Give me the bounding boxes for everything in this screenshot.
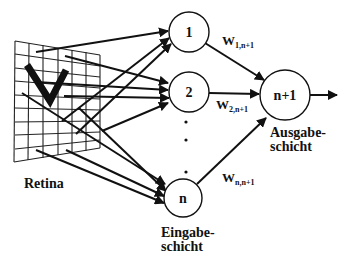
output-node: n+1: [260, 70, 310, 120]
retina-label: Retina: [24, 176, 64, 191]
weight-label-n: Wn,n+1: [222, 170, 254, 187]
weight-label-1: W1,n+1: [222, 33, 254, 50]
ellipsis-dots: [184, 120, 187, 173]
input-node-1: 1: [169, 12, 209, 52]
node-label: n+1: [274, 88, 297, 103]
weight-connection-2: [209, 93, 259, 94]
perceptron-diagram: 1 2 n n+1 W1,n+1 W2,n+1 Wn,n+1 Retina Ei…: [0, 0, 345, 262]
weight-label-2: W2,n+1: [216, 97, 248, 114]
node-label: n: [179, 191, 187, 206]
input-layer-label-line2: schicht: [161, 239, 203, 254]
output-layer-label-line2: schicht: [270, 139, 312, 154]
input-layer-label-line1: Eingabe-: [161, 225, 215, 240]
node-label: 1: [186, 25, 193, 40]
output-layer-label-line1: Ausgabe-: [270, 125, 326, 140]
input-node-2: 2: [169, 72, 209, 112]
node-label: 2: [186, 85, 193, 100]
input-node-n: n: [164, 179, 202, 217]
